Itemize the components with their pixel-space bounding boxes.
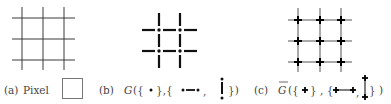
figure: (a) Pixel (b) G ({ },{ , }) (c) G ({ } ,… <box>0 0 391 104</box>
plus-node-marker <box>294 58 302 66</box>
plus-node-marker <box>337 58 345 66</box>
plus-node-marker <box>316 16 324 24</box>
caption-a-text: Pixel <box>23 84 50 96</box>
vertical-plus-edge-icon <box>362 75 368 100</box>
caption-b-open: ({ <box>133 84 144 97</box>
caption-c-func: G <box>278 84 286 96</box>
plus-node-marker <box>337 16 345 24</box>
panel-a-grid <box>12 7 75 70</box>
caption-a-label: (a) <box>4 84 18 96</box>
caption-b-mid: },{ <box>156 84 173 97</box>
plus-node-icon <box>302 87 308 93</box>
caption-c-label: (c) <box>254 84 268 96</box>
plus-node-marker <box>294 16 302 24</box>
plus-node-marker <box>337 37 345 45</box>
caption-b-func: G <box>124 84 132 96</box>
panel-b-grid <box>142 13 197 68</box>
caption-c-mid: } , { <box>310 84 333 97</box>
panel-c-nodes <box>294 16 345 66</box>
plus-node-marker <box>294 37 302 45</box>
plus-node-marker <box>316 58 324 66</box>
caption-b-close: }) <box>228 84 239 97</box>
horizontal-plus-edge-icon <box>333 87 356 93</box>
plus-node-marker <box>316 37 324 45</box>
caption-b-label: (b) <box>99 84 114 96</box>
vertical-dumbbell-icon <box>221 78 224 100</box>
dot-node-icon <box>150 89 153 92</box>
pixel-square-icon <box>63 79 83 99</box>
panel-b-nodes <box>157 28 181 52</box>
caption-c-open: ({ <box>288 84 299 97</box>
caption-b-sep: , <box>203 85 206 97</box>
caption-c-sep: , <box>356 86 359 98</box>
horizontal-dumbbell-icon <box>182 89 200 92</box>
caption-c-close: } ) <box>369 84 383 97</box>
